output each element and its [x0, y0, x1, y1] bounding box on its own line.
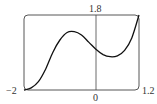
x-zero-label: 0	[93, 93, 98, 103]
chart-plot	[0, 0, 157, 104]
y-max-label: 1.8	[89, 4, 102, 14]
function-curve	[24, 15, 139, 90]
x-min-label: −2	[6, 86, 17, 96]
x-max-label: 1.2	[142, 86, 155, 96]
